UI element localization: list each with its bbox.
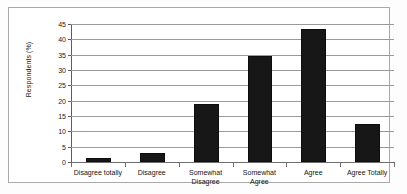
y-tick-label: 30 — [58, 67, 66, 74]
bar-cell — [126, 24, 180, 162]
y-tick-mark — [68, 70, 71, 71]
y-tick-mark — [68, 39, 71, 40]
x-axis-label-line: Agree — [233, 177, 285, 186]
y-axis-title: Respondents (%) — [25, 15, 32, 125]
x-axis-ticks — [71, 162, 394, 167]
bar-cell — [340, 24, 394, 162]
y-tick-mark — [68, 24, 71, 25]
x-axis-label-line: Disagree — [180, 177, 232, 186]
y-tick-label: 20 — [58, 97, 66, 104]
y-tick-mark — [68, 85, 71, 86]
x-tick-mark — [233, 162, 234, 167]
y-tick-mark — [68, 101, 71, 102]
bar-cell — [287, 24, 341, 162]
x-axis-label: Disagree totally — [71, 168, 125, 186]
x-axis-label-line: Disagree totally — [72, 168, 124, 177]
x-tick-mark — [179, 162, 180, 167]
x-tick-mark — [394, 162, 395, 167]
x-axis-label: Agree Totally — [340, 168, 394, 186]
y-tick-mark — [68, 116, 71, 117]
x-axis-label-line: Somewhat — [180, 168, 232, 177]
x-axis-labels: Disagree totallyDisagreeSomewhatDisagree… — [71, 168, 394, 186]
y-tick-label: 15 — [58, 113, 66, 120]
bar-cell — [72, 24, 126, 162]
y-tick-label: 35 — [58, 51, 66, 58]
chart-frame: Respondents (%) 051015202530354045 Disag… — [8, 7, 390, 183]
x-axis-label: Agree — [286, 168, 340, 186]
x-axis-label: Disagree — [125, 168, 179, 186]
x-axis-label: SomewhatAgree — [232, 168, 286, 186]
bar — [355, 124, 380, 162]
y-tick-label: 25 — [58, 82, 66, 89]
x-tick-mark — [125, 162, 126, 167]
x-axis-label-line: Somewhat — [233, 168, 285, 177]
x-axis-label-line: Agree — [287, 168, 339, 177]
chart-figure: Respondents (%) 051015202530354045 Disag… — [0, 0, 407, 194]
y-tick-label: 10 — [58, 128, 66, 135]
y-tick-label: 0 — [62, 159, 66, 166]
plot-area: 051015202530354045 — [71, 24, 394, 162]
bar — [301, 29, 326, 162]
x-tick-mark — [340, 162, 341, 167]
y-tick-label: 45 — [58, 21, 66, 28]
bar — [248, 56, 273, 162]
y-tick-mark — [68, 55, 71, 56]
y-tick-label: 5 — [62, 143, 66, 150]
x-axis-label-line: Disagree — [126, 168, 178, 177]
bar-series — [72, 24, 394, 162]
y-tick-mark — [68, 131, 71, 132]
y-tick-label: 40 — [58, 36, 66, 43]
x-axis-label: SomewhatDisagree — [179, 168, 233, 186]
y-tick-mark — [68, 147, 71, 148]
bar — [194, 104, 219, 162]
x-tick-mark — [286, 162, 287, 167]
bar — [140, 153, 165, 162]
bar-cell — [179, 24, 233, 162]
x-tick-mark — [71, 162, 72, 167]
x-axis-label-line: Agree Totally — [341, 168, 393, 177]
bar-cell — [233, 24, 287, 162]
